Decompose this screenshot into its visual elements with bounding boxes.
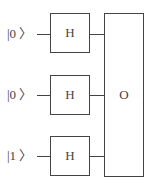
qubit-1-hadamard-gate: H bbox=[50, 75, 90, 115]
qubit-2-input-wire bbox=[37, 156, 50, 157]
oracle-label: O bbox=[119, 87, 128, 103]
qubit-0-output-wire bbox=[90, 34, 104, 35]
qubit-0-input-wire bbox=[37, 34, 50, 35]
qubit-0-initial-state: |0 〉 bbox=[7, 27, 32, 41]
qubit-2-initial-state: |1 〉 bbox=[7, 149, 32, 163]
qubit-1-input-wire bbox=[37, 95, 50, 96]
oracle-gate: O bbox=[104, 13, 144, 177]
gate-label: H bbox=[65, 148, 74, 164]
gate-label: H bbox=[65, 25, 74, 41]
qubit-0-hadamard-gate: H bbox=[50, 13, 90, 53]
gate-label: H bbox=[65, 87, 74, 103]
qubit-2-hadamard-gate: H bbox=[50, 136, 90, 176]
qubit-1-initial-state: |0 〉 bbox=[7, 88, 32, 102]
qubit-2-output-wire bbox=[90, 156, 104, 157]
qubit-1-output-wire bbox=[90, 95, 104, 96]
